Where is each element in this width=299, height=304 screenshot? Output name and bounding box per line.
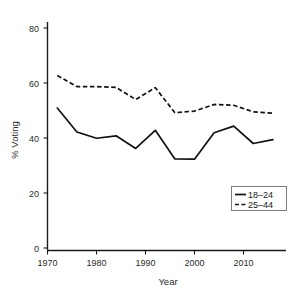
series-line-18-24 bbox=[57, 108, 273, 159]
y-tick-label-20: 20 bbox=[29, 189, 39, 199]
line-chart: 0 20 40 60 80 1970 1980 1990 2000 2010 Y… bbox=[0, 0, 299, 304]
x-tick-label-1970: 1970 bbox=[37, 258, 57, 268]
legend-label-25-44: 25–44 bbox=[248, 200, 273, 210]
y-tick-label-80: 80 bbox=[29, 24, 39, 34]
x-tick-label-2000: 2000 bbox=[184, 258, 204, 268]
x-axis-title: Year bbox=[158, 276, 177, 287]
x-tick-label-1980: 1980 bbox=[86, 258, 106, 268]
y-tick-label-0: 0 bbox=[34, 244, 39, 254]
y-axis-title: % Voting bbox=[9, 121, 20, 159]
chart-legend[interactable]: 18–24 25–44 bbox=[232, 187, 287, 211]
y-tick-label-40: 40 bbox=[29, 134, 39, 144]
chart-container: 0 20 40 60 80 1970 1980 1990 2000 2010 Y… bbox=[0, 0, 299, 304]
x-tick-label-1990: 1990 bbox=[135, 258, 155, 268]
y-tick-label-60: 60 bbox=[29, 79, 39, 89]
x-tick-label-2010: 2010 bbox=[233, 258, 253, 268]
series-line-25-44 bbox=[57, 76, 273, 114]
legend-label-18-24: 18–24 bbox=[248, 190, 273, 200]
